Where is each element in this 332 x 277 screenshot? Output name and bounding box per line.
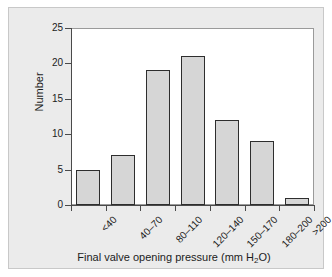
- y-axis-tick: [65, 134, 71, 135]
- x-axis-title-tail: O): [258, 251, 270, 263]
- x-axis-title-main: Final valve opening pressure (mm H: [77, 251, 254, 263]
- bar: [76, 170, 100, 205]
- bar: [111, 155, 135, 205]
- x-axis-tick-label: 150–170: [245, 214, 280, 249]
- bar: [250, 141, 274, 205]
- x-axis-tick-label: >200: [309, 214, 332, 238]
- y-axis-tick-label: 25: [41, 23, 63, 33]
- x-axis-tick-label: <40: [99, 214, 119, 234]
- y-axis-tick-label: 5: [41, 165, 63, 175]
- y-axis-line: [71, 28, 72, 206]
- y-axis-tick-label-wrap: 25: [39, 23, 63, 33]
- y-axis-tick: [65, 99, 71, 100]
- x-axis-title: Final valve opening pressure (mm H2O): [29, 251, 319, 265]
- figure: 0510152025 <4040–7080–110120–140150–1701…: [0, 0, 332, 277]
- x-axis-tick: [245, 206, 246, 211]
- y-axis-tick-label-wrap: 10: [39, 129, 63, 139]
- x-axis-tick: [106, 206, 107, 211]
- bar: [146, 70, 170, 205]
- y-axis-tick-label-wrap: 5: [39, 165, 63, 175]
- y-axis-tick: [65, 170, 71, 171]
- x-axis-tick-label: 80–110: [173, 214, 204, 245]
- y-axis-title: Number: [33, 57, 45, 127]
- x-axis-tick-label: 40–70: [137, 214, 164, 241]
- x-axis-tick: [210, 206, 211, 211]
- bar: [215, 120, 239, 205]
- y-axis-tick: [65, 63, 71, 64]
- x-axis-tick: [71, 206, 72, 211]
- bar: [181, 56, 205, 205]
- y-axis-tick-label: 10: [41, 129, 63, 139]
- x-axis-tick-label: 180–200: [279, 214, 314, 249]
- x-axis-tick: [314, 206, 315, 211]
- y-axis-tick-label: 0: [41, 200, 63, 210]
- x-axis-tick: [140, 206, 141, 211]
- x-axis-tick: [279, 206, 280, 211]
- bar: [285, 198, 309, 205]
- y-axis-tick: [65, 28, 71, 29]
- x-axis-tick: [175, 206, 176, 211]
- chart-panel: 0510152025 <4040–7080–110120–140150–1701…: [8, 7, 324, 269]
- x-axis-tick-label: 120–140: [210, 214, 245, 249]
- y-axis-tick-label-wrap: 0: [39, 200, 63, 210]
